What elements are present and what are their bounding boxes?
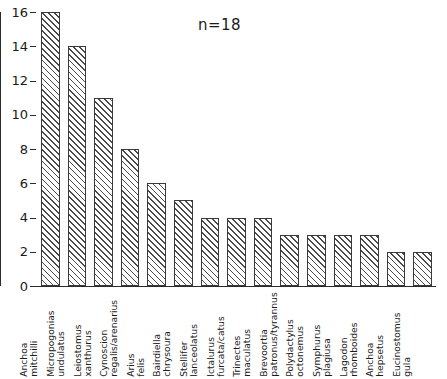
x-axis-label-line: chrysoura <box>163 331 173 377</box>
bar <box>413 252 432 286</box>
x-axis-label-text: Ariusfelis <box>126 354 147 377</box>
x-axis-label-line: xanthurus <box>83 325 93 377</box>
bar <box>147 183 166 286</box>
x-axis-label-line: Lagodon <box>339 323 349 377</box>
x-axis-label-line: maculatus <box>243 329 253 377</box>
y-axis-tick-label: 6 <box>0 177 28 190</box>
x-axis-label-line: Ictalurus <box>206 316 216 377</box>
bar <box>41 12 60 286</box>
x-axis-label-text: Eucinostomusgula <box>392 313 413 377</box>
x-axis-label-line: plagiusa <box>323 325 333 377</box>
x-axis-label-text: Ictalurusfurcata/catus <box>206 316 227 377</box>
y-axis-tick <box>30 81 36 82</box>
bar <box>201 218 220 287</box>
x-axis-label-text: Polydactylusoctonemus <box>286 319 307 377</box>
bar <box>227 218 246 287</box>
bar <box>68 46 87 286</box>
x-axis-label-line: mitchilli <box>30 341 40 377</box>
x-axis-label-line: octonemus <box>296 319 306 377</box>
x-axis-label-line: gula <box>402 313 412 377</box>
x-axis-label-text: Brevoortiapatronus/tyrannus <box>259 293 280 378</box>
y-axis-tick-label: 8 <box>0 143 28 156</box>
x-axis-label-text: Anchoamitchilli <box>20 341 41 377</box>
y-axis-tick <box>30 183 36 184</box>
x-axis-label-line: hepsetus <box>376 335 386 377</box>
x-axis-label-line: furcata/catus <box>216 316 226 377</box>
y-axis-tick-label: 4 <box>0 211 28 224</box>
x-axis-label-text: Bairdiellachrysoura <box>153 331 174 377</box>
bar <box>174 200 193 286</box>
x-axis-label-line: undulatus <box>57 311 67 377</box>
y-axis-tick <box>30 252 36 253</box>
x-axis-label-text: Trinectesmaculatus <box>232 329 253 377</box>
x-axis-label-text: Stelliferlanceolatus <box>179 324 200 377</box>
bar <box>387 252 406 286</box>
y-axis-tick <box>30 218 36 219</box>
bar-chart: 0246810121416 n=18 AnchoamitchilliMicrop… <box>0 0 447 379</box>
x-axis-label-text: Leiostomusxanthurus <box>73 325 94 377</box>
x-axis-label: Eucinostomusgula <box>423 289 424 377</box>
bar <box>254 218 273 287</box>
y-axis-tick <box>30 12 36 13</box>
y-axis-tick-label: 0 <box>0 280 28 293</box>
y-axis-tick-label: 12 <box>0 74 28 87</box>
x-axis-label-text: Cynoscionregalis/arenarius <box>99 300 120 377</box>
x-axis-label-text: Symphurusplagiusa <box>312 325 333 377</box>
bar <box>360 235 379 286</box>
x-axis-label-text: Anchoahepsetus <box>365 335 386 377</box>
x-axis-label-line: regalis/arenarius <box>110 300 120 377</box>
bar <box>94 98 113 286</box>
x-axis-label-line: rhomboides <box>349 323 359 377</box>
x-axis-label-line: patronus/tyrannus <box>269 293 279 378</box>
bar <box>121 149 140 286</box>
x-axis-line <box>36 286 436 287</box>
bar <box>334 235 353 286</box>
x-axis-label-line: felis <box>136 354 146 377</box>
x-axis-label-text: Micropogoniasundulatus <box>46 311 67 377</box>
bar <box>307 235 326 286</box>
y-axis-tick <box>30 46 36 47</box>
x-axis-label-line: Leiostomus <box>73 325 83 377</box>
sample-size-annotation: n=18 <box>198 16 241 34</box>
x-axis-label-line: lanceolatus <box>190 324 200 377</box>
bar <box>280 235 299 286</box>
y-axis-tick-label: 10 <box>0 108 28 121</box>
x-axis-category-labels: AnchoamitchilliMicropogoniasundulatusLei… <box>37 289 436 379</box>
y-axis-tick-label: 14 <box>0 40 28 53</box>
y-axis-tick-label: 2 <box>0 245 28 258</box>
y-axis-tick-label: 16 <box>0 6 28 19</box>
y-axis-tick <box>30 149 36 150</box>
x-axis-label-text: Lagodonrhomboides <box>339 323 360 377</box>
y-axis-tick <box>30 115 36 116</box>
bar-series <box>37 12 436 286</box>
